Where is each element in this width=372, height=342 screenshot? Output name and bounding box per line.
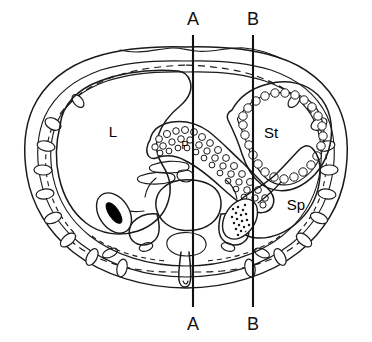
renal-vessel-left	[101, 246, 119, 260]
rib-ellipse	[35, 188, 54, 200]
body-wall-group	[25, 47, 347, 288]
rib-ellipse	[243, 258, 257, 278]
rib-ellipse	[36, 139, 56, 153]
diaphragmatic-crus-left	[145, 178, 156, 197]
vertebral-body	[156, 180, 221, 231]
splenic-vein-outline	[149, 161, 189, 173]
skin-wave-detail	[120, 48, 280, 58]
paraspinal-vessel-right	[220, 241, 236, 253]
rib-ellipse	[317, 188, 336, 200]
rib-ellipse	[70, 92, 87, 109]
rib-ellipse	[115, 258, 129, 278]
transverse-process-left	[129, 214, 159, 245]
organ-label-stomach: St	[264, 124, 279, 141]
rib-ellipse	[320, 165, 338, 176]
section-label-b-bottom: B	[247, 314, 259, 334]
rib-ellipse	[271, 247, 288, 268]
label-group: A B A B L P St Sp	[109, 9, 305, 334]
organ-label-liver: L	[109, 123, 117, 140]
renal-vessel-right	[253, 246, 271, 260]
organ-label-spleen: Sp	[287, 196, 305, 213]
section-label-a-top: A	[187, 9, 199, 29]
organ-label-pancreas: P	[181, 139, 188, 151]
spinous-process-tip	[183, 281, 188, 284]
rib-ellipse	[58, 230, 78, 249]
spinous-process	[179, 252, 191, 287]
paraspinal-vessel-left	[138, 241, 154, 253]
rib-ellipse	[294, 230, 314, 249]
rib-ellipse	[34, 165, 52, 176]
spinal-canal	[167, 233, 206, 256]
rib-ellipse	[83, 247, 100, 268]
anatomy-figure: A B A B L P St Sp	[0, 0, 372, 342]
anatomy-diagram-svg: A B A B L P St Sp	[0, 0, 372, 342]
section-label-b-top: B	[247, 9, 259, 29]
section-label-a-bottom: A	[187, 314, 199, 334]
rib-ellipses	[34, 92, 338, 277]
